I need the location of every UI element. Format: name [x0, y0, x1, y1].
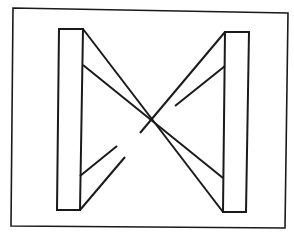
- impossible-figure-drawing: [0, 0, 294, 233]
- right-pillar: [223, 32, 249, 212]
- figure-canvas: [0, 0, 294, 233]
- left-pillar: [57, 29, 83, 210]
- back-band-inner-upper-edge: [175, 66, 225, 106]
- back-band-outer-upper-edge: [140, 32, 225, 133]
- front-band-inner-edge: [83, 65, 223, 178]
- back-band-outer-lower-edge: [80, 157, 125, 210]
